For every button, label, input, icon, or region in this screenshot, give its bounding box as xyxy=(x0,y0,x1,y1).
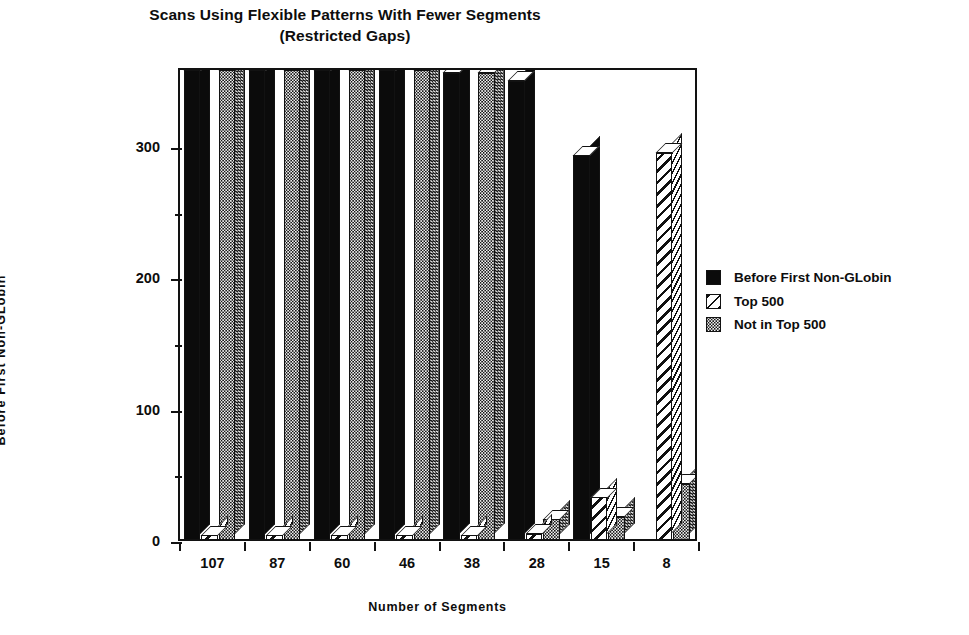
x-tick-label: 46 xyxy=(375,555,440,571)
bar-side-face xyxy=(430,70,440,534)
y-tick-label: 300 xyxy=(136,139,160,155)
bar-front-face xyxy=(284,70,301,539)
bar-8-series2 xyxy=(656,143,682,539)
bar-side-face xyxy=(525,70,535,533)
bar-107-series3 xyxy=(219,70,245,539)
bar-top-face xyxy=(396,526,422,536)
x-tick xyxy=(374,542,376,551)
bar-top-face xyxy=(526,524,552,534)
bar-side-face xyxy=(607,478,617,533)
bar-107-series1 xyxy=(184,70,210,539)
bar-107-series2 xyxy=(201,526,227,539)
y-tick-minor xyxy=(175,214,182,216)
bar-28-series1 xyxy=(508,71,534,539)
legend-swatch-stipple-gray xyxy=(706,317,721,332)
bar-side-face xyxy=(300,70,310,534)
bar-front-face xyxy=(184,70,201,539)
bar-front-face xyxy=(443,73,460,539)
legend-item-1[interactable]: Before First Non-GLobin xyxy=(706,266,892,290)
bar-38-series3 xyxy=(478,70,504,539)
chart-title-line1: Scans Using Flexible Patterns With Fewer… xyxy=(149,6,541,23)
x-tick xyxy=(309,542,311,551)
x-tick-label: 8 xyxy=(634,555,699,571)
bar-front-face xyxy=(331,535,348,539)
x-tick xyxy=(698,542,700,551)
bar-46-series2 xyxy=(396,526,422,539)
bar-38-series1 xyxy=(443,70,469,539)
bar-side-face xyxy=(235,70,245,534)
bar-top-face xyxy=(461,526,487,536)
x-tick xyxy=(503,542,505,551)
chart-title: Scans Using Flexible Patterns With Fewer… xyxy=(0,4,690,46)
x-tick xyxy=(568,542,570,551)
y-tick-label: 200 xyxy=(136,270,160,286)
bar-side-face xyxy=(365,70,375,534)
bar-top-face xyxy=(266,526,292,536)
x-tick-label: 87 xyxy=(245,555,310,571)
legend-label: Before First Non-GLobin xyxy=(734,270,892,285)
bar-front-face xyxy=(314,70,331,539)
y-axis-title: Before First Non-GLobin xyxy=(0,200,8,520)
bar-15-series1 xyxy=(573,146,599,539)
x-tick-label: 28 xyxy=(504,555,569,571)
bar-side-face xyxy=(200,70,210,534)
bar-side-face xyxy=(330,70,340,534)
bar-60-series3 xyxy=(349,70,375,539)
bar-side-face xyxy=(395,70,405,534)
bar-front-face xyxy=(414,70,431,539)
bar-front-face xyxy=(508,81,525,540)
bar-side-face xyxy=(265,70,275,534)
bar-front-face xyxy=(219,70,236,539)
x-tick xyxy=(244,542,246,551)
bar-front-face xyxy=(656,153,673,539)
bar-front-face xyxy=(249,70,266,539)
bar-60-series1 xyxy=(314,70,340,539)
legend-label: Top 500 xyxy=(734,294,784,309)
bar-46-series1 xyxy=(379,70,405,539)
bar-46-series3 xyxy=(414,70,440,539)
bar-60-series2 xyxy=(331,526,357,539)
bar-87-series1 xyxy=(249,70,275,539)
bar-side-face xyxy=(495,70,505,534)
bar-87-series2 xyxy=(266,526,292,539)
plot-clip xyxy=(180,70,695,539)
bar-28-series2 xyxy=(526,524,552,539)
legend-item-3[interactable]: Not in Top 500 xyxy=(706,313,892,337)
plot-area: 01002003001078760463828158 xyxy=(178,68,697,541)
bar-front-face xyxy=(349,70,366,539)
chart-title-line2: (Restricted Gaps) xyxy=(0,25,690,46)
legend-item-2[interactable]: Top 500 xyxy=(706,290,892,314)
y-tick-minor xyxy=(175,345,182,347)
x-axis-title: Number of Segments xyxy=(178,600,697,614)
legend-label: Not in Top 500 xyxy=(734,317,826,332)
bar-front-face xyxy=(526,534,543,539)
bar-15-series2 xyxy=(591,488,617,540)
bar-top-face xyxy=(331,526,357,536)
y-tick-major xyxy=(171,279,182,281)
bar-side-face xyxy=(460,70,470,534)
x-tick-label: 60 xyxy=(310,555,375,571)
x-tick xyxy=(179,542,181,551)
bar-front-face xyxy=(591,497,608,539)
legend-swatch-diagonal-hatch xyxy=(706,294,721,309)
legend-swatch-solid-black xyxy=(706,270,721,285)
y-tick-major xyxy=(171,411,182,413)
bar-front-face xyxy=(201,535,218,539)
x-tick-label: 107 xyxy=(180,555,245,571)
bar-front-face xyxy=(396,535,413,539)
y-tick-major xyxy=(171,148,182,150)
bar-side-face xyxy=(590,136,600,533)
bar-front-face xyxy=(478,73,495,539)
bar-front-face xyxy=(461,535,478,539)
bar-front-face xyxy=(266,535,283,539)
y-tick-minor xyxy=(175,476,182,478)
y-tick-label: 0 xyxy=(152,533,160,549)
y-tick-label: 100 xyxy=(136,402,160,418)
bar-side-face xyxy=(672,134,682,534)
bar-front-face xyxy=(573,155,590,539)
x-tick xyxy=(439,542,441,551)
chart-legend: Before First Non-GLobinTop 500Not in Top… xyxy=(706,266,892,337)
x-tick xyxy=(633,542,635,551)
bar-87-series3 xyxy=(284,70,310,539)
x-tick-label: 15 xyxy=(569,555,634,571)
